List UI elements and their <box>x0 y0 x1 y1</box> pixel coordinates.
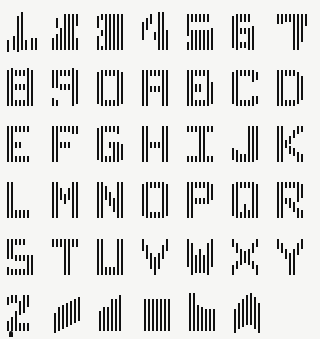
bar-stroke <box>246 295 248 325</box>
bar-stroke <box>199 30 201 50</box>
bar-stroke <box>150 142 152 148</box>
bar-stroke <box>19 126 21 132</box>
bar-stroke <box>277 126 279 162</box>
bar-stroke <box>293 14 295 50</box>
bar-stroke <box>105 100 107 106</box>
bar-stroke <box>281 14 283 24</box>
bar-stroke <box>211 82 213 104</box>
bar-stroke <box>289 146 291 154</box>
bar-stroke <box>244 182 246 188</box>
bar-stroke <box>31 255 33 275</box>
bar-stroke <box>66 303 68 327</box>
bar-stroke <box>148 299 150 331</box>
bar-stroke <box>301 76 303 100</box>
bar-stroke <box>256 239 258 247</box>
bar-stroke <box>285 70 287 76</box>
bar-stroke <box>199 14 201 22</box>
bar-stroke <box>240 14 242 22</box>
bar-stroke <box>248 182 250 188</box>
bar-stroke <box>252 261 254 269</box>
glyph-i <box>187 124 219 164</box>
glyph-u <box>97 237 129 277</box>
bar-stroke <box>256 184 258 218</box>
bar-stroke <box>150 86 152 92</box>
bar-stroke <box>60 84 62 90</box>
glyph-t <box>52 237 84 277</box>
glyph-bars-steps <box>97 293 129 333</box>
bar-stroke <box>289 14 291 22</box>
bar-stroke <box>285 14 287 22</box>
bar-stroke <box>117 126 119 134</box>
bar-stroke <box>109 70 111 76</box>
bar-stroke <box>146 245 148 259</box>
bar-stroke <box>56 239 58 247</box>
bar-stroke <box>195 30 197 50</box>
bar-stroke <box>281 70 283 106</box>
bar-stroke <box>203 198 205 204</box>
bar-stroke <box>121 239 123 275</box>
bar-stroke <box>195 70 197 76</box>
bar-stroke <box>142 184 144 216</box>
bar-stroke <box>199 249 201 273</box>
bar-stroke <box>23 295 25 313</box>
bar-stroke <box>58 307 60 331</box>
bar-stroke <box>207 156 209 162</box>
bar-stroke <box>238 303 240 329</box>
bar-stroke <box>154 86 156 92</box>
bar-stroke <box>142 126 144 162</box>
bar-stroke <box>7 239 9 259</box>
bar-stroke <box>107 307 109 331</box>
bar-stroke <box>154 182 156 188</box>
bar-stroke <box>142 22 144 40</box>
bar-stroke <box>60 28 62 50</box>
bar-stroke <box>211 126 213 132</box>
bar-stroke <box>154 212 156 218</box>
bar-stroke <box>105 156 107 162</box>
bar-stroke <box>105 70 107 76</box>
bar-stroke <box>240 70 242 76</box>
bar-stroke <box>7 70 9 106</box>
bar-stroke <box>117 70 119 106</box>
bar-stroke <box>187 239 189 267</box>
bar-stroke <box>187 182 189 218</box>
bar-stroke <box>252 243 254 253</box>
bar-stroke <box>56 182 58 218</box>
bar-stroke <box>211 184 213 200</box>
bar-stroke <box>240 42 242 48</box>
bar-stroke <box>72 14 74 50</box>
glyph-6 <box>232 12 264 52</box>
bar-stroke <box>23 84 25 90</box>
bar-stroke <box>76 126 78 134</box>
bar-stroke <box>150 253 152 269</box>
bar-stroke <box>162 245 164 259</box>
bar-stroke <box>144 299 146 331</box>
bar-stroke <box>252 182 254 218</box>
bar-stroke <box>150 14 152 24</box>
bar-stroke <box>113 100 115 106</box>
bar-stroke <box>72 239 74 247</box>
bar-stroke <box>285 249 287 259</box>
glyph-5 <box>187 12 219 52</box>
bar-stroke <box>232 16 234 48</box>
bar-stroke <box>25 40 27 50</box>
glyph-s <box>7 237 39 277</box>
bar-stroke <box>156 299 158 331</box>
bar-stroke <box>113 14 115 50</box>
bar-stroke <box>13 36 15 50</box>
glyph-c <box>232 68 264 108</box>
bar-stroke <box>11 182 13 218</box>
bar-stroke <box>109 156 111 162</box>
bar-stroke <box>15 295 17 303</box>
bar-stroke <box>158 142 160 148</box>
bar-stroke <box>60 70 62 76</box>
bar-stroke <box>115 299 117 331</box>
bar-stroke <box>248 249 250 265</box>
bar-stroke <box>195 255 197 273</box>
bar-stroke <box>232 72 234 104</box>
bar-stroke <box>301 239 303 249</box>
bar-stroke <box>105 186 107 200</box>
bar-stroke <box>68 239 70 275</box>
bar-stroke <box>248 126 250 162</box>
bar-stroke <box>68 14 70 50</box>
bar-stroke <box>15 142 17 148</box>
